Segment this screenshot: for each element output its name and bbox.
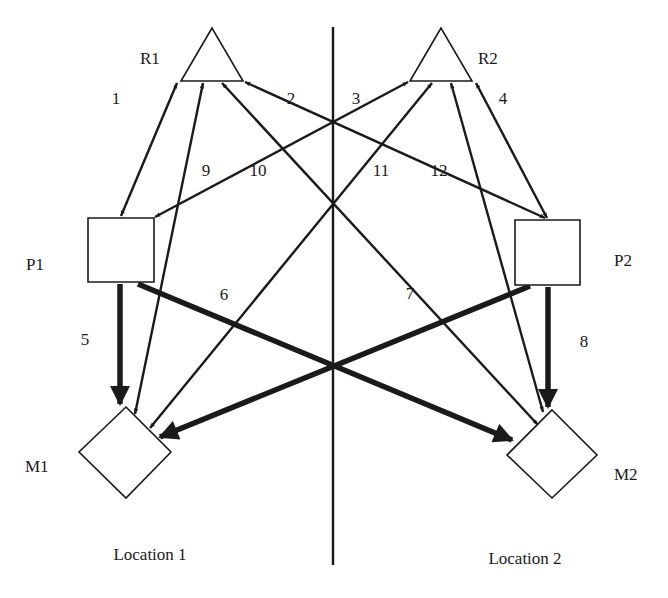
diamond-icon bbox=[507, 410, 597, 498]
edge-m2-r1 bbox=[222, 83, 538, 425]
edge-label: 9 bbox=[202, 161, 211, 180]
location-label: Location 2 bbox=[488, 549, 561, 568]
edge-label: 11 bbox=[373, 161, 389, 180]
edge-label: 6 bbox=[220, 285, 229, 304]
node-m1: M1 bbox=[25, 407, 171, 498]
node-p1: P1 bbox=[26, 218, 154, 282]
edge-label: 3 bbox=[352, 89, 361, 108]
network-diagram: R1R2P1P2M1M2 123456789101112 Location 1L… bbox=[0, 0, 668, 598]
edge-label: 5 bbox=[81, 330, 90, 349]
node-label: M2 bbox=[614, 465, 638, 484]
edge-label: 8 bbox=[580, 332, 589, 351]
edge-label: 2 bbox=[287, 89, 296, 108]
node-r1: R1 bbox=[140, 28, 243, 81]
node-label: P2 bbox=[614, 251, 632, 270]
triangle-icon bbox=[181, 28, 243, 81]
node-label: R2 bbox=[478, 49, 498, 68]
edge-r1-p1 bbox=[121, 83, 177, 216]
location-label: Location 1 bbox=[113, 545, 186, 564]
square-icon bbox=[88, 218, 154, 282]
edge-label: 1 bbox=[112, 89, 121, 108]
edge-p2-m1 bbox=[160, 286, 530, 437]
edge-label: 4 bbox=[499, 89, 508, 108]
node-r2: R2 bbox=[410, 28, 498, 81]
node-label: M1 bbox=[25, 457, 49, 476]
edge-r2-p2 bbox=[476, 83, 547, 218]
node-m2: M2 bbox=[507, 410, 638, 498]
square-icon bbox=[515, 220, 580, 285]
node-label: P1 bbox=[26, 255, 44, 274]
node-label: R1 bbox=[140, 49, 160, 68]
node-p2: P2 bbox=[515, 220, 632, 285]
edge-p1-m2 bbox=[138, 284, 512, 440]
triangle-icon bbox=[410, 28, 472, 81]
edge-p1-r2 bbox=[155, 82, 408, 217]
edge-label: 12 bbox=[431, 161, 448, 180]
location-labels-layer: Location 1Location 2 bbox=[113, 545, 561, 568]
edge-label: 10 bbox=[250, 161, 267, 180]
edge-label: 7 bbox=[406, 284, 415, 303]
